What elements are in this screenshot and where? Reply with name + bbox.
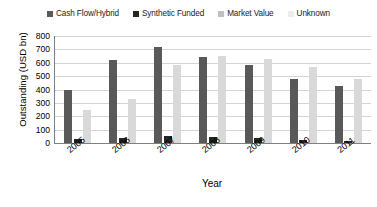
x-label-slot: 2005 [54, 145, 99, 177]
bar-group [190, 36, 235, 143]
legend-swatch-market-value [218, 11, 224, 17]
bar-group [145, 36, 190, 143]
legend-item-cash-flow-hybrid: Cash Flow/Hybrid [47, 10, 119, 18]
bar-cash-flow-hybrid-2011 [335, 86, 343, 144]
x-label-slot: 2008 [189, 145, 234, 177]
plot-wrapper: Outstanding (USD bn) 8007006005004003002… [0, 24, 377, 207]
x-axis-labels: 2005200620072008200920102011 [54, 145, 370, 177]
bar-market-value-2011 [354, 79, 362, 143]
bar-group [281, 36, 326, 143]
y-tick-label: 700 [36, 44, 50, 54]
x-label-slot: 2007 [144, 145, 189, 177]
bar-cash-flow-hybrid-2007 [154, 47, 162, 143]
bar-market-value-2007 [173, 65, 181, 143]
bar-market-value-2009 [264, 59, 272, 143]
y-tick-label: 500 [36, 71, 50, 81]
x-label-slot: 2006 [99, 145, 144, 177]
y-tick-label: 300 [36, 98, 50, 108]
legend-label-cash-flow-hybrid: Cash Flow/Hybrid [56, 10, 119, 18]
y-tick-label: 200 [36, 111, 50, 121]
legend-label-unknown: Unknown [297, 10, 330, 18]
legend-item-unknown: Unknown [288, 10, 330, 18]
bar-group [55, 36, 100, 143]
y-tick-label: 0 [45, 138, 50, 148]
legend-swatch-synthetic-funded [133, 11, 139, 17]
plot-area [54, 36, 371, 144]
chart-legend: Cash Flow/Hybrid Synthetic Funded Market… [0, 6, 377, 22]
bars-layer [55, 36, 371, 143]
y-tick-label: 600 [36, 58, 50, 68]
legend-swatch-cash-flow-hybrid [47, 11, 53, 17]
bar-cash-flow-hybrid-2005 [64, 90, 72, 144]
bar-cash-flow-hybrid-2009 [245, 65, 253, 143]
y-tick-label: 400 [36, 85, 50, 95]
bar-chart: Cash Flow/Hybrid Synthetic Funded Market… [0, 0, 377, 207]
bar-cash-flow-hybrid-2008 [199, 57, 207, 143]
x-label-slot: 2011 [325, 145, 370, 177]
bar-cash-flow-hybrid-2010 [290, 79, 298, 143]
legend-item-market-value: Market Value [218, 10, 273, 18]
x-label-slot: 2010 [280, 145, 325, 177]
bar-market-value-2010 [309, 67, 317, 143]
y-axis-ticks: 8007006005004003002001000 [24, 36, 50, 143]
x-label-slot: 2009 [235, 145, 280, 177]
y-tick-label: 800 [36, 31, 50, 41]
bar-group [326, 36, 371, 143]
bar-group [100, 36, 145, 143]
legend-item-synthetic-funded: Synthetic Funded [133, 10, 204, 18]
legend-label-market-value: Market Value [227, 10, 273, 18]
legend-label-synthetic-funded: Synthetic Funded [142, 10, 204, 18]
bar-market-value-2005 [83, 110, 91, 143]
x-axis-title: Year [54, 178, 370, 189]
bar-market-value-2006 [128, 99, 136, 143]
y-tick-label: 100 [36, 125, 50, 135]
legend-swatch-unknown [288, 11, 294, 17]
bar-cash-flow-hybrid-2006 [109, 60, 117, 143]
bar-group [236, 36, 281, 143]
bar-market-value-2008 [218, 56, 226, 143]
